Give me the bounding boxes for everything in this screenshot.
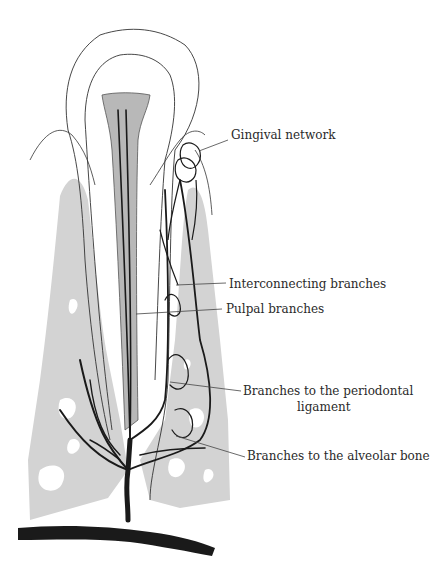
label-gingival-network: Gingival network (231, 128, 335, 142)
alveolar-bone-left (28, 179, 128, 520)
label-interconnecting-branches: Interconnecting branches (229, 277, 386, 291)
label-periodontal-ligament-line2: ligament (297, 400, 351, 414)
label-periodontal-ligament-line1: Branches to the periodontal (243, 384, 413, 398)
label-alveolar-bone: Branches to the alveolar bone (247, 449, 430, 463)
basal-artery (18, 526, 215, 556)
label-pulpal-branches: Pulpal branches (226, 302, 324, 316)
